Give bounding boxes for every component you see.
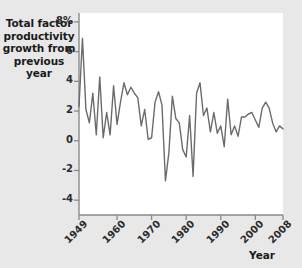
y-tick-label: 4 — [66, 74, 73, 85]
y-tick-label: 6 — [66, 45, 73, 56]
y-tick-label: 2 — [66, 104, 73, 115]
y-tick-label: -4 — [62, 193, 73, 204]
chart-figure: Total factor productivity growth from pr… — [0, 0, 302, 268]
y-tick-label: 0 — [66, 134, 73, 145]
x-tick-marks — [79, 215, 283, 220]
y-tick-label: -2 — [62, 163, 73, 174]
y-tick-label: 8% — [56, 15, 73, 26]
y-tick-marks — [74, 22, 79, 200]
